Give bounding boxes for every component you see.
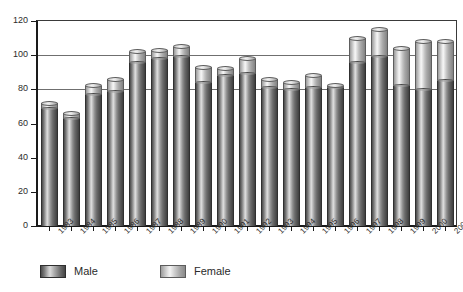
bar-segment-male[interactable] (327, 88, 344, 226)
bar-group[interactable] (415, 21, 432, 226)
bar-group[interactable] (349, 21, 366, 226)
x-axis-tick-label: 1999 (409, 230, 415, 236)
y-axis-tick-label: 100 (13, 50, 28, 59)
x-axis-tick-label: 1988 (167, 230, 173, 236)
bar-segment-male[interactable] (393, 86, 410, 226)
y-axis-tick-label: 80 (18, 84, 28, 93)
bar-segment-male[interactable] (283, 89, 300, 226)
bar-series-layer (38, 21, 456, 226)
bar-group[interactable] (63, 21, 80, 226)
bar-group[interactable] (85, 21, 102, 226)
x-axis-tick-label: 1997 (365, 230, 371, 236)
bar-top-cap (239, 56, 256, 61)
y-axis-tick-label: 120 (13, 16, 28, 25)
bar-segment-male[interactable] (261, 88, 278, 226)
bar-top-cap (195, 65, 212, 70)
bar-group[interactable] (261, 21, 278, 226)
bar-segment-male[interactable] (151, 59, 168, 226)
legend-label: Male (74, 264, 98, 279)
segment-divider (129, 61, 146, 64)
x-axis-tick-label: 1990 (211, 230, 217, 236)
y-axis-tick-label: 0 (23, 221, 28, 230)
bar-top-cap (371, 27, 388, 32)
bar-top-cap (437, 39, 454, 44)
x-axis-tick-label: 1995 (321, 230, 327, 236)
bar-chart: 020406080100120 198319841985198619871988… (0, 0, 463, 292)
bar-group[interactable] (393, 21, 410, 226)
bar-group[interactable] (327, 21, 344, 226)
bar-group[interactable] (283, 21, 300, 226)
x-axis-tick-label: 1984 (79, 230, 85, 236)
x-axis-tick-label: 1996 (343, 230, 349, 236)
segment-divider (349, 61, 366, 64)
bar-segment-female[interactable] (393, 48, 410, 86)
bar-group[interactable] (151, 21, 168, 226)
bar-top-cap (151, 48, 168, 53)
bar-segment-male[interactable] (107, 91, 124, 226)
x-axis-tick-label: 1991 (233, 230, 239, 236)
bar-segment-female[interactable] (349, 38, 366, 62)
segment-divider (415, 88, 432, 91)
bar-segment-female[interactable] (371, 30, 388, 57)
bar-group[interactable] (173, 21, 190, 226)
segment-divider (151, 57, 168, 60)
x-axis-tick-label: 1994 (299, 230, 305, 236)
x-axis-tick-label: 1987 (145, 230, 151, 236)
bar-segment-male[interactable] (415, 89, 432, 226)
segment-divider (41, 107, 58, 110)
bar-segment-male[interactable] (371, 57, 388, 226)
bar-segment-male[interactable] (63, 118, 80, 226)
x-axis-tick-label: 1992 (255, 230, 261, 236)
bar-segment-female[interactable] (415, 42, 432, 90)
segment-divider (85, 93, 102, 96)
bar-segment-male[interactable] (41, 108, 58, 226)
bar-group[interactable] (195, 21, 212, 226)
x-axis-tick-label: 1998 (387, 230, 393, 236)
bar-segment-male[interactable] (305, 88, 322, 226)
bar-group[interactable] (217, 21, 234, 226)
female-swatch (160, 265, 186, 278)
bar-segment-male[interactable] (195, 83, 212, 227)
bar-segment-male[interactable] (217, 76, 234, 226)
x-axis-tick-label: 1986 (123, 230, 129, 236)
bar-group[interactable] (129, 21, 146, 226)
bar-group[interactable] (107, 21, 124, 226)
segment-divider (63, 117, 80, 120)
x-axis-tick-label: 1993 (277, 230, 283, 236)
bar-segment-male[interactable] (129, 62, 146, 226)
male-swatch (40, 265, 66, 278)
y-axis-tick-label: 20 (18, 187, 28, 196)
bar-group[interactable] (239, 21, 256, 226)
bar-group[interactable] (437, 21, 454, 226)
bar-top-cap (415, 39, 432, 44)
bar-top-cap (261, 77, 278, 82)
x-axis-tick-label: 1989 (189, 230, 195, 236)
segment-divider (283, 88, 300, 91)
bar-top-cap (41, 101, 58, 106)
x-axis-tick-label: 1985 (101, 230, 107, 236)
bar-segment-male[interactable] (173, 57, 190, 226)
legend-label: Female (194, 264, 231, 279)
x-axis-tick-label: 2001 (453, 230, 459, 236)
y-axis: 020406080100120 (0, 0, 36, 247)
bar-top-cap (393, 46, 410, 51)
bar-group[interactable] (41, 21, 58, 226)
y-axis-tick-label: 40 (18, 153, 28, 162)
bar-segment-male[interactable] (349, 62, 366, 226)
bar-segment-male[interactable] (437, 81, 454, 226)
bar-top-cap (63, 111, 80, 116)
bar-top-cap (173, 44, 190, 49)
bar-segment-male[interactable] (239, 74, 256, 226)
bar-top-cap (107, 77, 124, 82)
chart-legend: MaleFemale (0, 264, 463, 288)
bar-segment-female[interactable] (437, 42, 454, 81)
x-axis-labels: 1983198419851986198719881989199019911992… (38, 230, 459, 264)
bar-group[interactable] (371, 21, 388, 226)
x-axis-tick-label: 1983 (57, 230, 63, 236)
bar-group[interactable] (305, 21, 322, 226)
bar-segment-male[interactable] (85, 94, 102, 226)
segment-divider (195, 81, 212, 84)
segment-divider (107, 90, 124, 93)
y-axis-tick-label: 60 (18, 119, 28, 128)
bar-top-cap (283, 80, 300, 85)
